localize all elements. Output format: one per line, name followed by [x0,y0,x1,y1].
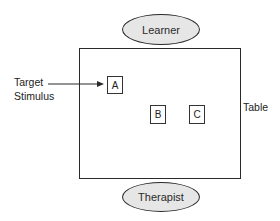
therapist-label: Therapist [138,191,184,203]
therapist-node: Therapist [122,182,200,212]
table-label: Table [243,101,268,114]
